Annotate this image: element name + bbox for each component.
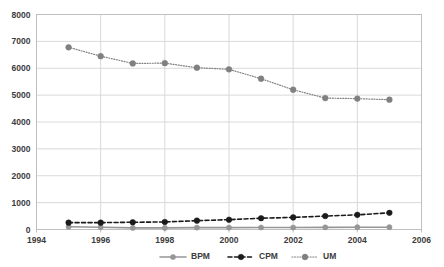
data-point-marker bbox=[290, 215, 296, 221]
y-axis-tick-label: 2000 bbox=[12, 171, 31, 181]
data-point-marker bbox=[354, 96, 360, 102]
y-axis-tick-label: 7000 bbox=[12, 36, 31, 46]
data-point-marker bbox=[98, 53, 104, 59]
data-point-marker bbox=[226, 217, 232, 223]
data-point-marker bbox=[162, 60, 168, 66]
data-point-marker bbox=[66, 220, 72, 226]
y-axis-tick-label: 8000 bbox=[12, 10, 31, 20]
data-point-marker bbox=[130, 61, 136, 67]
x-axis-tick-label: 1994 bbox=[27, 235, 46, 245]
x-axis-tick-label: 2000 bbox=[220, 235, 239, 245]
y-axis-tick-label: 4000 bbox=[12, 117, 31, 127]
legend-label: UM bbox=[323, 251, 336, 261]
x-axis-tick-label: 2006 bbox=[412, 235, 431, 245]
y-axis-tick-label: 6000 bbox=[12, 63, 31, 73]
legend-label: BPM bbox=[191, 251, 210, 261]
data-point-marker bbox=[387, 225, 392, 230]
data-point-marker bbox=[194, 218, 200, 224]
data-point-marker bbox=[291, 225, 296, 230]
legend-marker-icon bbox=[238, 254, 244, 260]
line-chart: 800070006000500040003000200010000 199419… bbox=[0, 0, 444, 267]
data-point-marker bbox=[226, 225, 231, 230]
y-axis-tick-label: 0 bbox=[26, 225, 31, 235]
legend-label: CPM bbox=[259, 251, 278, 261]
y-axis-tick-labels: 800070006000500040003000200010000 bbox=[12, 10, 31, 235]
data-point-marker bbox=[387, 97, 393, 103]
x-axis-tick-label: 2002 bbox=[284, 235, 303, 245]
x-axis-tick-label: 1998 bbox=[155, 235, 174, 245]
data-point-marker bbox=[98, 220, 104, 226]
x-axis-tick-label: 1996 bbox=[91, 235, 110, 245]
legend-marker-icon bbox=[302, 254, 308, 260]
data-point-marker bbox=[258, 76, 264, 82]
data-point-marker bbox=[130, 225, 135, 230]
data-point-marker bbox=[130, 219, 136, 225]
x-axis-tick-label: 2004 bbox=[348, 235, 367, 245]
data-point-marker bbox=[355, 225, 360, 230]
data-point-marker bbox=[323, 225, 328, 230]
chart-canvas: 800070006000500040003000200010000 199419… bbox=[0, 0, 444, 267]
data-point-marker bbox=[258, 215, 264, 221]
data-point-marker bbox=[194, 225, 199, 230]
data-point-marker bbox=[322, 213, 328, 219]
data-point-marker bbox=[290, 87, 296, 93]
data-point-marker bbox=[194, 65, 200, 71]
data-point-marker bbox=[355, 212, 361, 218]
data-point-marker bbox=[322, 95, 328, 101]
y-axis-tick-label: 3000 bbox=[12, 144, 31, 154]
data-point-marker bbox=[66, 44, 72, 50]
y-axis-tick-label: 5000 bbox=[12, 90, 31, 100]
data-point-marker bbox=[258, 225, 263, 230]
data-point-marker bbox=[226, 66, 232, 72]
data-point-marker bbox=[162, 225, 167, 230]
legend-marker-icon bbox=[170, 254, 175, 259]
data-point-marker bbox=[162, 219, 168, 225]
y-axis-tick-label: 1000 bbox=[12, 198, 31, 208]
data-point-marker bbox=[387, 210, 393, 216]
